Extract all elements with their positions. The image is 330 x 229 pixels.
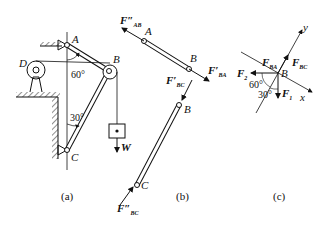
force-f-ba-p: F′BA (207, 64, 226, 78)
label-b-a: A (144, 25, 152, 37)
panel-b: A B B C F″AB F′BA F′BC F″BC (b) (116, 14, 226, 216)
force-f1: F1 (281, 87, 292, 101)
label-w: W (121, 141, 132, 153)
force-f-bc-pp: F″BC (116, 202, 139, 216)
label-b-c: C (141, 179, 149, 191)
axis-y-label: y (302, 21, 308, 33)
caption-b: (b) (176, 190, 189, 203)
label-b-b1: B (190, 52, 197, 64)
label-b: B (113, 53, 120, 65)
statics-diagram: A B C D 60° 30° W (a) A B B C F″AB F′BA … (0, 0, 330, 229)
label-b-b2: B (184, 103, 191, 115)
axis-x-label: x (299, 91, 305, 103)
label-c-b: B (281, 67, 288, 79)
force-f-bc-p: F′BC (165, 74, 185, 88)
hinge-c (65, 148, 70, 153)
caption-c: (c) (273, 190, 286, 203)
angle-60: 60° (71, 69, 85, 80)
ground-hatch (16, 92, 60, 97)
angle-c-30: 30° (258, 89, 272, 100)
panel-c: FBA FBC F2 F1 B x y 60° 30° (c) (236, 21, 312, 203)
label-c: C (71, 151, 79, 163)
force-f-ba: FBA (261, 56, 277, 70)
force-f-ab-pp: F″AB (119, 14, 141, 28)
wall-hatch (52, 97, 58, 159)
label-d: D (18, 57, 27, 69)
force-f-bc: FBC (291, 56, 308, 70)
force-f2: F2 (236, 67, 247, 81)
panel-a: A B C D 60° 30° W (a) (16, 32, 132, 203)
caption-a: (a) (61, 190, 74, 203)
angle-30: 30° (70, 112, 84, 123)
hinge-a (65, 43, 70, 48)
label-a: A (71, 33, 79, 45)
ceiling-hatch (40, 42, 62, 46)
